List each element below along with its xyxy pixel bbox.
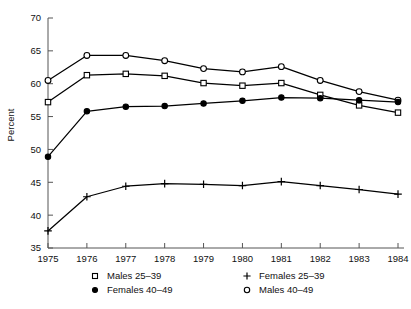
data-point (122, 182, 130, 190)
data-point (201, 66, 207, 72)
data-point (394, 190, 402, 198)
y-tick-label: 35 (30, 242, 41, 253)
legend-label: Females 40–49 (107, 284, 172, 295)
series-line (48, 182, 398, 231)
data-point (162, 103, 167, 108)
series-layer (44, 53, 402, 235)
y-axis: 3540455055606570 (30, 12, 53, 253)
series-line (48, 55, 398, 100)
x-tick-label: 1981 (271, 253, 292, 264)
y-tick-label: 60 (30, 78, 41, 89)
line-chart: 3540455055606570 19751976197719781979198… (0, 0, 411, 309)
data-point (356, 97, 361, 102)
x-tick-label: 1984 (387, 253, 408, 264)
x-axis: 1975197619771978197919801981198219831984 (37, 243, 408, 264)
legend-label: Females 25–39 (259, 270, 324, 281)
series-males-40-49 (45, 53, 401, 103)
data-point (123, 53, 129, 59)
data-point (395, 110, 400, 115)
data-point (278, 178, 286, 186)
legend-label: Males 40–49 (259, 284, 313, 295)
legend-marker (93, 288, 98, 293)
x-tick-label: 1980 (232, 253, 253, 264)
data-point (279, 95, 284, 100)
data-point (162, 73, 167, 78)
x-tick-label: 1983 (349, 253, 370, 264)
data-point (395, 99, 400, 104)
legend-item: Females 25–39 (243, 270, 324, 281)
data-point (355, 186, 363, 194)
x-tick-label: 1982 (310, 253, 331, 264)
y-tick-label: 45 (30, 177, 41, 188)
data-point (84, 53, 90, 59)
data-point (123, 104, 128, 109)
legend-item: Females 40–49 (93, 284, 173, 295)
y-tick-label: 55 (30, 111, 41, 122)
x-tick-label: 1978 (154, 253, 175, 264)
data-point (317, 78, 323, 84)
series-females-40-49 (45, 95, 400, 160)
legend-item: Males 25–39 (93, 270, 162, 281)
x-tick-label: 1979 (193, 253, 214, 264)
y-tick-label: 50 (30, 144, 41, 155)
chart-container: 3540455055606570 19751976197719781979198… (0, 0, 411, 309)
x-tick-label: 1975 (37, 253, 58, 264)
series-line (48, 74, 398, 113)
series-females-25-39 (44, 178, 402, 235)
data-point (45, 78, 51, 84)
data-point (356, 103, 361, 108)
data-point (240, 69, 246, 75)
x-tick-label: 1977 (115, 253, 136, 264)
series-males-25-39 (45, 71, 400, 115)
data-point (278, 64, 284, 70)
data-point (45, 99, 50, 104)
data-point (201, 80, 206, 85)
data-point (84, 72, 89, 77)
data-point (316, 182, 324, 190)
data-point (240, 98, 245, 103)
data-point (318, 95, 323, 100)
legend-item: Males 40–49 (244, 284, 313, 295)
legend-marker (93, 274, 98, 279)
data-point (45, 154, 50, 159)
data-point (162, 58, 168, 64)
data-point (200, 180, 208, 188)
series-line (48, 98, 398, 157)
y-axis-label: Percent (5, 108, 16, 141)
legend-marker (244, 287, 249, 292)
x-tick-label: 1976 (76, 253, 97, 264)
y-tick-label: 40 (30, 210, 41, 221)
data-point (356, 89, 362, 95)
data-point (123, 71, 128, 76)
legend-label: Males 25–39 (107, 270, 161, 281)
y-tick-label: 70 (30, 12, 41, 23)
data-point (279, 80, 284, 85)
data-point (201, 101, 206, 106)
data-point (84, 109, 89, 114)
data-point (239, 182, 247, 190)
legend-marker (243, 272, 250, 279)
y-tick-label: 65 (30, 45, 41, 56)
chart-legend: Males 25–39Females 25–39Females 40–49Mal… (93, 270, 325, 295)
y-axis-title: Percent (5, 108, 16, 141)
data-point (240, 83, 245, 88)
data-point (161, 180, 169, 188)
